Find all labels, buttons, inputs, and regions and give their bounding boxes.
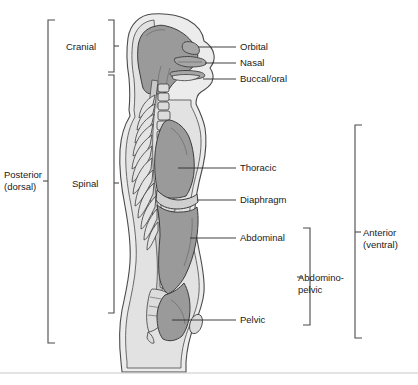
vertebra: [158, 111, 170, 120]
posterior-label-line2: (dorsal): [4, 181, 36, 192]
pelvic-label: Pelvic: [240, 314, 266, 325]
anatomy-figure-root: Posterior (dorsal) Cranial Spinal Anteri…: [0, 0, 418, 385]
abdominopelvic-label-line2: pelvic: [298, 284, 323, 295]
posterior-label-line1: Posterior: [4, 169, 42, 180]
cranial-label: Cranial: [66, 41, 96, 52]
abdominal-label: Abdominal: [240, 232, 285, 243]
vertebra: [158, 102, 169, 110]
diaphragm-label: Diaphragm: [240, 194, 287, 205]
anterior-label-line1: Anterior: [363, 227, 396, 238]
vertebra: [158, 93, 169, 101]
left-bracket-group: Posterior (dorsal) Cranial Spinal: [4, 20, 119, 343]
posterior-bracket: [48, 20, 55, 343]
buccal-oral-label: Buccal/oral: [240, 73, 287, 84]
anterior-label-line2: (ventral): [363, 239, 398, 250]
thoracic-label: Thoracic: [240, 162, 277, 173]
nasal-label: Nasal: [240, 57, 264, 68]
cranial-bracket: [108, 20, 114, 72]
spinal-bracket: [108, 75, 114, 313]
vertebra: [158, 84, 169, 92]
right-bracket-group: Anterior (ventral) Abdomino- pelvic: [297, 125, 398, 338]
spinal-label: Spinal: [72, 178, 98, 189]
abdominopelvic-label-line1: Abdomino-: [298, 272, 344, 283]
orbital-label: Orbital: [240, 41, 268, 52]
body-cavities-diagram: Posterior (dorsal) Cranial Spinal Anteri…: [0, 0, 418, 385]
